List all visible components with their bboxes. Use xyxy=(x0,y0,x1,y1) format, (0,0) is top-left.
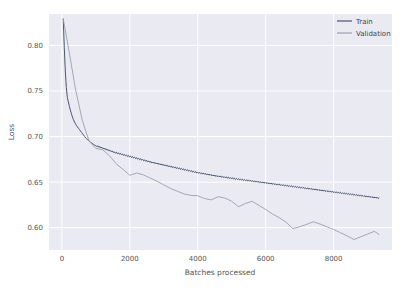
axes-background xyxy=(49,14,392,250)
legend-label-train: Train xyxy=(355,18,373,26)
x-axis-tick-labels: 02000400060008000 xyxy=(60,255,343,263)
x-tick-label: 4000 xyxy=(189,255,207,263)
loss-curve-chart: 02000400060008000 0.600.650.700.750.80 T… xyxy=(0,0,415,293)
x-tick-label: 2000 xyxy=(121,255,139,263)
y-axis-title: Loss xyxy=(7,124,16,141)
x-tick-label: 0 xyxy=(60,255,64,263)
y-tick-label: 0.80 xyxy=(27,42,43,50)
legend-label-validation: Validation xyxy=(356,30,391,38)
x-axis-title: Batches processed xyxy=(185,268,256,277)
x-tick-label: 6000 xyxy=(257,255,275,263)
figure-canvas: 02000400060008000 0.600.650.700.750.80 T… xyxy=(0,0,415,293)
y-tick-label: 0.60 xyxy=(27,224,43,232)
y-tick-label: 0.70 xyxy=(27,133,43,141)
y-tick-label: 0.75 xyxy=(27,87,43,95)
y-axis-tick-labels: 0.600.650.700.750.80 xyxy=(27,42,43,232)
x-tick-label: 8000 xyxy=(325,255,343,263)
y-tick-label: 0.65 xyxy=(27,179,43,187)
